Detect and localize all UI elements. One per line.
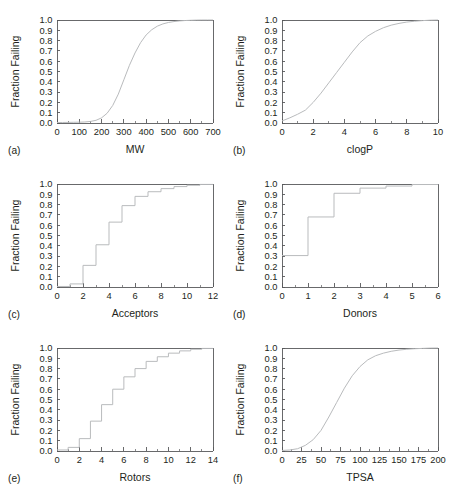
y-tick-label: 0.4: [265, 241, 278, 251]
y-tick-label: 1.0: [40, 15, 53, 25]
y-axis-title: Fraction Failing: [234, 35, 246, 107]
panel-letter: (a): [8, 145, 20, 156]
y-axis-title: Fraction Failing: [9, 199, 21, 271]
x-tick-label: 1: [305, 291, 310, 301]
y-tick-label: 0.3: [265, 87, 278, 97]
y-tick-label: 0.5: [265, 231, 278, 241]
y-tick-label: 0.5: [265, 395, 278, 405]
y-tick-label: 0.5: [265, 67, 278, 77]
y-tick-label: 1.0: [265, 343, 278, 353]
y-tick-label: 0.0: [265, 118, 278, 128]
y-tick-label: 0.4: [265, 405, 278, 415]
x-tick-label: 2: [77, 455, 82, 465]
x-tick-label: 6: [435, 291, 440, 301]
x-tick-label: 4: [342, 127, 347, 137]
y-tick-label: 0.1: [265, 272, 278, 282]
x-tick-label: 8: [404, 127, 409, 137]
x-tick-label: 4: [383, 291, 388, 301]
x-tick-label: 600: [183, 127, 199, 137]
y-tick-label: 0.2: [265, 426, 278, 436]
y-tick-label: 0.9: [265, 26, 278, 36]
y-tick-label: 1.0: [40, 343, 53, 353]
y-tick-label: 0.4: [265, 77, 278, 87]
x-tick-label: 2: [311, 127, 316, 137]
y-tick-label: 0.8: [265, 364, 278, 374]
x-tick-label: 14: [208, 455, 218, 465]
plot-acceptors: 0.00.10.20.30.40.50.60.70.80.91.00246810…: [0, 164, 225, 328]
panel-c: 0.00.10.20.30.40.50.60.70.80.91.00246810…: [0, 164, 225, 328]
x-tick-label: 8: [144, 455, 149, 465]
x-tick-label: 2: [331, 291, 336, 301]
y-tick-label: 0.3: [265, 251, 278, 261]
y-tick-label: 0.6: [265, 385, 278, 395]
data-curve: [282, 20, 438, 121]
x-axis-title: Rotors: [120, 471, 151, 483]
x-axis: 024681012: [54, 283, 218, 301]
y-tick-label: 0.8: [40, 36, 53, 46]
x-tick-label: 700: [205, 127, 221, 137]
y-tick-label: 0.8: [40, 200, 53, 210]
x-axis: 0255075100125150175200: [279, 447, 445, 465]
panel-f: 0.00.10.20.30.40.50.60.70.80.91.00255075…: [225, 328, 450, 492]
y-tick-label: 0.0: [40, 118, 53, 128]
panel-e: 0.00.10.20.30.40.50.60.70.80.91.00246810…: [0, 328, 225, 492]
x-tick-label: 100: [72, 127, 88, 137]
data-curve: [282, 348, 438, 450]
x-axis: 0123456: [279, 283, 440, 301]
x-axis-title: clogP: [347, 143, 373, 155]
plot-frame: [282, 20, 438, 123]
plot-mw: 0.00.10.20.30.40.50.60.70.80.91.00100200…: [0, 0, 225, 164]
x-tick-label: 10: [182, 291, 192, 301]
y-tick-label: 0.9: [40, 354, 53, 364]
y-tick-label: 0.0: [265, 282, 278, 292]
panel-letter: (b): [233, 145, 245, 156]
y-tick-label: 1.0: [265, 15, 278, 25]
y-tick-label: 0.3: [265, 415, 278, 425]
plot-tpsa: 0.00.10.20.30.40.50.60.70.80.91.00255075…: [225, 328, 450, 492]
panel-d: 0.00.10.20.30.40.50.60.70.80.91.00123456…: [225, 164, 450, 328]
y-axis-title: Fraction Failing: [234, 363, 246, 435]
x-tick-label: 200: [430, 455, 446, 465]
x-tick-label: 0: [54, 127, 59, 137]
y-tick-label: 0.0: [40, 446, 53, 456]
y-tick-label: 0.9: [265, 190, 278, 200]
y-tick-label: 0.2: [265, 98, 278, 108]
x-tick-label: 6: [132, 291, 137, 301]
panel-letter: (c): [8, 309, 20, 320]
y-tick-label: 0.6: [265, 221, 278, 231]
x-tick-label: 10: [163, 455, 173, 465]
y-tick-label: 0.6: [40, 221, 53, 231]
y-axis-title: Fraction Failing: [234, 199, 246, 271]
y-tick-label: 0.7: [265, 210, 278, 220]
plot-frame: [57, 20, 213, 123]
plot-rotors: 0.00.10.20.30.40.50.60.70.80.91.00246810…: [0, 328, 225, 492]
y-tick-label: 0.7: [40, 210, 53, 220]
x-tick-label: 3: [357, 291, 362, 301]
x-tick-label: 0: [279, 291, 284, 301]
x-tick-label: 175: [411, 455, 427, 465]
y-tick-label: 0.6: [40, 57, 53, 67]
y-tick-label: 0.1: [40, 108, 53, 118]
y-tick-label: 0.1: [40, 436, 53, 446]
y-tick-label: 0.5: [40, 395, 53, 405]
y-axis-title: Fraction Failing: [9, 35, 21, 107]
y-tick-label: 0.6: [265, 57, 278, 67]
truncated-caption: [0, 486, 450, 493]
y-tick-label: 0.8: [265, 36, 278, 46]
y-tick-label: 0.0: [40, 282, 53, 292]
x-tick-label: 150: [391, 455, 407, 465]
x-axis: 02468101214: [54, 447, 218, 465]
x-axis-title: TPSA: [346, 471, 373, 483]
x-axis-title: Donors: [343, 307, 377, 319]
panel-letter: (e): [8, 473, 20, 484]
y-tick-label: 0.8: [40, 364, 53, 374]
y-tick-label: 0.2: [40, 98, 53, 108]
data-curve: [57, 184, 213, 286]
x-tick-label: 4: [99, 455, 104, 465]
y-tick-label: 0.2: [265, 262, 278, 272]
x-tick-label: 0: [279, 455, 284, 465]
x-tick-label: 5: [409, 291, 414, 301]
y-tick-label: 0.7: [40, 374, 53, 384]
y-tick-label: 0.2: [40, 426, 53, 436]
panel-letter: (d): [233, 309, 245, 320]
